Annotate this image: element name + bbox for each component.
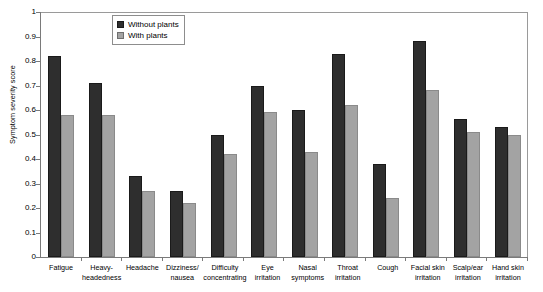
x-axis-category-label: Hand skinirritation — [488, 263, 528, 282]
x-axis-category-label-line: Headache — [123, 263, 161, 273]
bar — [251, 86, 264, 258]
bar — [102, 115, 115, 257]
bar-group — [447, 12, 488, 257]
bar — [264, 112, 277, 257]
y-axis-tick-label: 0.5 — [0, 131, 36, 139]
x-axis-category-label-line: Facial skin — [409, 263, 447, 273]
y-axis-tick-mark — [36, 86, 40, 87]
x-axis-category-label-line: headedness — [82, 273, 121, 283]
x-axis-tick-mark — [82, 257, 123, 261]
x-axis-category-label-line: Throat — [329, 263, 367, 273]
x-axis-category-label-line: Heavy- — [82, 263, 121, 273]
x-axis-category-label: Facial skinirritation — [408, 263, 448, 282]
x-axis-category-label-line: irritation — [449, 273, 487, 283]
bar — [224, 154, 237, 257]
y-axis-tick-mark — [36, 135, 40, 136]
x-axis-category-label-line: concentrating — [203, 273, 246, 283]
bar — [345, 105, 358, 257]
x-axis-category-label: Eyeirritation — [248, 263, 288, 282]
bar — [142, 191, 155, 257]
x-axis-tick-mark — [163, 257, 204, 261]
x-axis-category-label-line: irritation — [489, 273, 527, 283]
bar — [183, 203, 196, 257]
y-axis-tick-mark — [36, 257, 40, 258]
bar-group — [406, 12, 447, 257]
x-axis-category-label-line: irritation — [249, 273, 287, 283]
x-axis-tick-mark — [325, 257, 366, 261]
x-axis-category-label-line: irritation — [409, 273, 447, 283]
bar — [508, 135, 521, 258]
legend-item: Without plants — [117, 19, 179, 30]
bar-chart: Symptom severity score 10.90.80.70.60.50… — [0, 0, 543, 292]
bar — [129, 176, 142, 257]
x-axis-tick-mark — [487, 257, 528, 261]
y-axis-tick-mark — [36, 12, 40, 13]
bar — [467, 132, 480, 257]
x-axis-category-label: Nasalsymptoms — [288, 263, 328, 282]
x-axis-tick-mark — [447, 257, 488, 261]
x-axis-category-label-line: Dizziness/ — [163, 263, 201, 273]
x-axis-tick-mark — [366, 257, 407, 261]
bar — [373, 164, 386, 257]
bar-group — [82, 12, 123, 257]
bar — [305, 152, 318, 257]
x-axis-tick-mark — [203, 257, 244, 261]
x-axis-category-label-line: Scalp/ear — [449, 263, 487, 273]
bar — [413, 41, 426, 257]
bar-group — [487, 12, 528, 257]
legend: Without plantsWith plants — [112, 15, 185, 45]
bar — [89, 83, 102, 257]
x-axis-tick-mark — [122, 257, 163, 261]
x-axis-category-label-line: Cough — [369, 263, 407, 273]
bar-group — [325, 12, 366, 257]
x-axis-category-label-line: irritation — [329, 273, 367, 283]
x-axis-category-label: Dizziness/nausea — [162, 263, 202, 282]
bar — [426, 90, 439, 257]
y-axis-tick-label: 0.1 — [0, 229, 36, 237]
y-axis-tick-mark — [36, 61, 40, 62]
x-axis-category-label: Difficultyconcentrating — [202, 263, 247, 282]
y-axis-tick-label: 0.7 — [0, 82, 36, 90]
bars-area — [41, 12, 528, 257]
bar-group — [163, 12, 204, 257]
legend-label: With plants — [128, 31, 168, 40]
x-axis-category-label: Cough — [368, 263, 408, 282]
bar-group — [203, 12, 244, 257]
x-axis-category-label-line: Hand skin — [489, 263, 527, 273]
bar-group — [41, 12, 82, 257]
bar — [61, 115, 74, 257]
bar — [211, 135, 224, 258]
x-axis-labels: FatigueHeavy-headednessHeadacheDizziness… — [41, 263, 528, 282]
x-axis-tick-mark — [41, 257, 82, 261]
y-axis-tick-label: 0.3 — [0, 180, 36, 188]
x-axis-category-label-line: Fatigue — [42, 263, 80, 273]
x-axis-category-label: Heavy-headedness — [81, 263, 122, 282]
bar — [495, 127, 508, 257]
y-axis-tick-label: 0.4 — [0, 155, 36, 163]
x-axis-category-label-line: Eye — [249, 263, 287, 273]
legend-swatch-icon — [117, 21, 124, 28]
bar — [170, 191, 183, 257]
y-axis-tick-mark — [36, 159, 40, 160]
bar-group — [366, 12, 407, 257]
legend-label: Without plants — [128, 20, 179, 29]
x-axis-tick-mark — [284, 257, 325, 261]
bar — [454, 119, 467, 257]
x-axis-ticks — [41, 257, 528, 261]
y-axis-tick-label: 0.8 — [0, 57, 36, 65]
y-axis-tick-label: 1 — [0, 8, 36, 16]
x-axis-category-label: Throatirritation — [328, 263, 368, 282]
x-axis-tick-mark — [244, 257, 285, 261]
bar-group — [122, 12, 163, 257]
x-axis-category-label-line: symptoms — [289, 273, 327, 283]
bar-group — [284, 12, 325, 257]
bar-group — [244, 12, 285, 257]
y-axis-tick-mark — [36, 37, 40, 38]
x-axis-category-label-line: Nasal — [289, 263, 327, 273]
x-axis-category-label: Scalp/earirritation — [448, 263, 488, 282]
y-axis-tick-label: 0 — [0, 253, 36, 261]
y-axis-tick-mark — [36, 110, 40, 111]
y-axis-tick-mark — [36, 233, 40, 234]
bar — [292, 110, 305, 257]
bar — [332, 54, 345, 257]
